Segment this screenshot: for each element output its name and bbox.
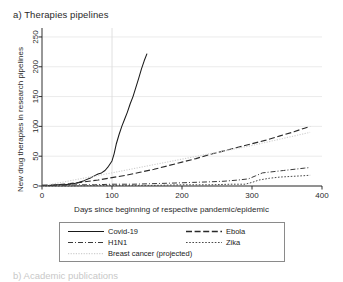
svg-text:100: 100 [31,119,40,133]
svg-text:200: 200 [175,191,189,200]
legend-label: Breast cancer (projected) [108,250,192,258]
legend-label: Zika [226,239,240,247]
legend-item-breast-cancer-projected[interactable]: Breast cancer (projected) [68,250,186,258]
next-panel-title: b) Academic publications [13,270,118,281]
data-series-group [42,54,310,186]
svg-text:300: 300 [245,191,259,200]
series-line-covid-19 [42,54,147,186]
svg-text:100: 100 [105,191,119,200]
legend-item-ebola[interactable]: Ebola [186,228,294,236]
x-axis-title: Days since beginning of respective pande… [0,205,343,214]
legend-item-h1n1[interactable]: H1N1 [68,239,186,247]
svg-text:150: 150 [31,89,40,103]
svg-text:0: 0 [31,183,40,188]
legend-key-icon [68,250,104,257]
legend-label: Ebola [226,228,245,236]
figure-panel-a: a) Therapies pipelines New drug therapie… [0,0,343,282]
svg-text:400: 400 [315,191,329,200]
legend-key-icon [68,239,104,246]
chart-canvas: 050100150200250 0100200300400 [0,0,343,210]
legend-label: Covid-19 [108,228,138,236]
svg-text:250: 250 [31,30,40,44]
legend-key-icon [186,228,222,235]
series-line-h1n1 [42,168,310,186]
x-axis-ticks: 0100200300400 [40,186,329,200]
y-axis-ticks: 050100150200250 [31,30,42,188]
legend-label: H1N1 [108,239,127,247]
legend-item-covid-19[interactable]: Covid-19 [68,228,186,236]
chart-legend: Covid-19EbolaH1N1ZikaBreast cancer (proj… [59,222,285,262]
legend-key-icon [68,228,104,235]
svg-text:50: 50 [31,151,40,160]
svg-text:200: 200 [31,60,40,74]
svg-text:0: 0 [40,191,45,200]
legend-key-icon [186,239,222,246]
legend-item-zika[interactable]: Zika [186,239,294,247]
